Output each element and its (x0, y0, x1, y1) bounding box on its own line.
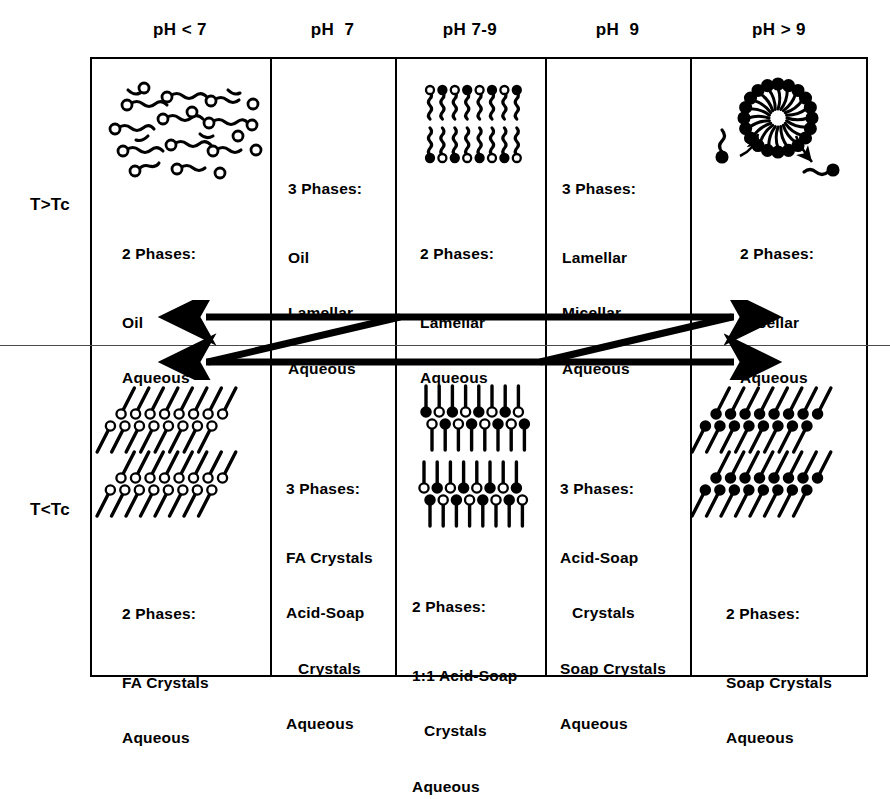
phase-item: Aqueous (122, 730, 209, 746)
phase-item: Crystals (560, 605, 666, 621)
phase-item: Soap Crystals (560, 661, 666, 677)
phase-item: Aqueous (726, 730, 832, 746)
cell-text-below-tc-col1: 2 Phases: FA Crystals Aqueous (122, 575, 209, 761)
figure-acid-soap-crystal-vertical (418, 398, 536, 538)
column-header-ph-7: pH 7 (270, 20, 395, 40)
phase-item: Soap Crystals (726, 675, 832, 691)
cell-text-below-tc-col2: 3 Phases: FA Crystals Acid-Soap Crystals… (286, 450, 373, 747)
phase-count: 3 Phases: (562, 181, 636, 197)
phase-item: Aqueous (286, 716, 373, 732)
column-header-ph-7-9: pH 7-9 (395, 20, 545, 40)
phase-count: 2 Phases: (122, 606, 209, 622)
phase-item: Aqueous (560, 716, 666, 732)
phase-transition-arrows (150, 300, 790, 380)
figure-micelle-with-monomers (700, 74, 870, 210)
phase-item: Acid-Soap (286, 605, 373, 621)
phase-count: 3 Phases: (560, 481, 666, 497)
cell-text-below-tc-col4: 3 Phases: Acid-Soap Crystals Soap Crysta… (560, 450, 666, 747)
cell-text-below-tc-col3: 2 Phases: 1:1 Acid-Soap Crystals Aqueous (412, 568, 517, 799)
phase-item: FA Crystals (286, 550, 373, 566)
phase-item: Oil (288, 250, 362, 266)
row-label-below-tc: T<Tc (14, 500, 86, 520)
cell-text-below-tc-col5: 2 Phases: Soap Crystals Aqueous (726, 575, 832, 761)
row-label-above-tc: T>Tc (14, 195, 86, 215)
phase-count: 2 Phases: (412, 599, 517, 615)
column-header-ph-lt-7: pH < 7 (90, 20, 270, 40)
phase-count: 3 Phases: (286, 481, 373, 497)
phase-item: Crystals (286, 661, 373, 677)
phase-item: Lamellar (562, 250, 636, 266)
phase-item: 1:1 Acid-Soap (412, 668, 517, 684)
phase-count: 3 Phases: (288, 181, 362, 197)
phase-item: FA Crystals (122, 675, 209, 691)
phase-count: 2 Phases: (122, 246, 196, 262)
phase-item: Acid-Soap (560, 550, 666, 566)
phase-count: 2 Phases: (726, 606, 832, 622)
column-header-ph-9: pH 9 (545, 20, 690, 40)
figure-lamellar-bilayer (423, 84, 527, 164)
phase-item: Crystals (412, 723, 517, 739)
phase-count: 2 Phases: (740, 246, 814, 262)
phase-count: 2 Phases: (420, 246, 494, 262)
figure-disordered-oil-chains (108, 78, 266, 184)
phase-item: Aqueous (412, 779, 517, 795)
column-header-ph-gt-9: pH > 9 (690, 20, 868, 40)
